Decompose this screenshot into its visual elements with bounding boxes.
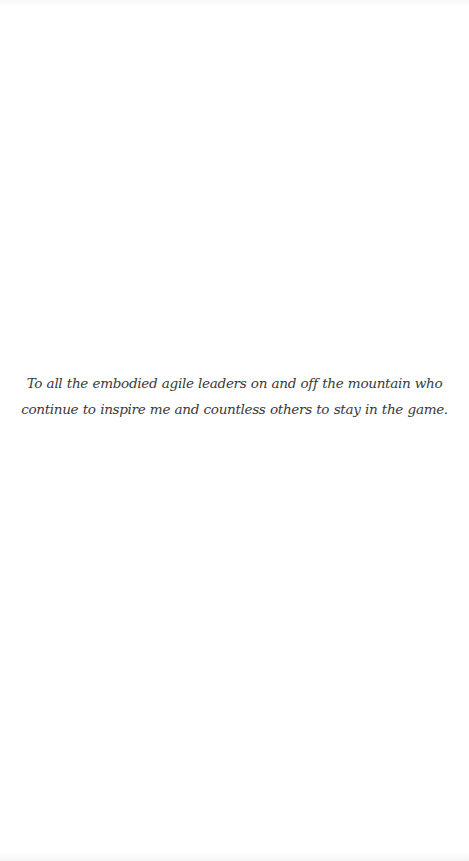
dedication-line-1: To all the embodied agile leaders on and…	[0, 370, 469, 396]
book-page: To all the embodied agile leaders on and…	[0, 0, 469, 861]
page-edge-bottom	[0, 851, 469, 861]
page-edge-top	[0, 0, 469, 8]
dedication-line-2: continue to inspire me and countless oth…	[0, 396, 469, 422]
dedication-text: To all the embodied agile leaders on and…	[0, 370, 469, 422]
